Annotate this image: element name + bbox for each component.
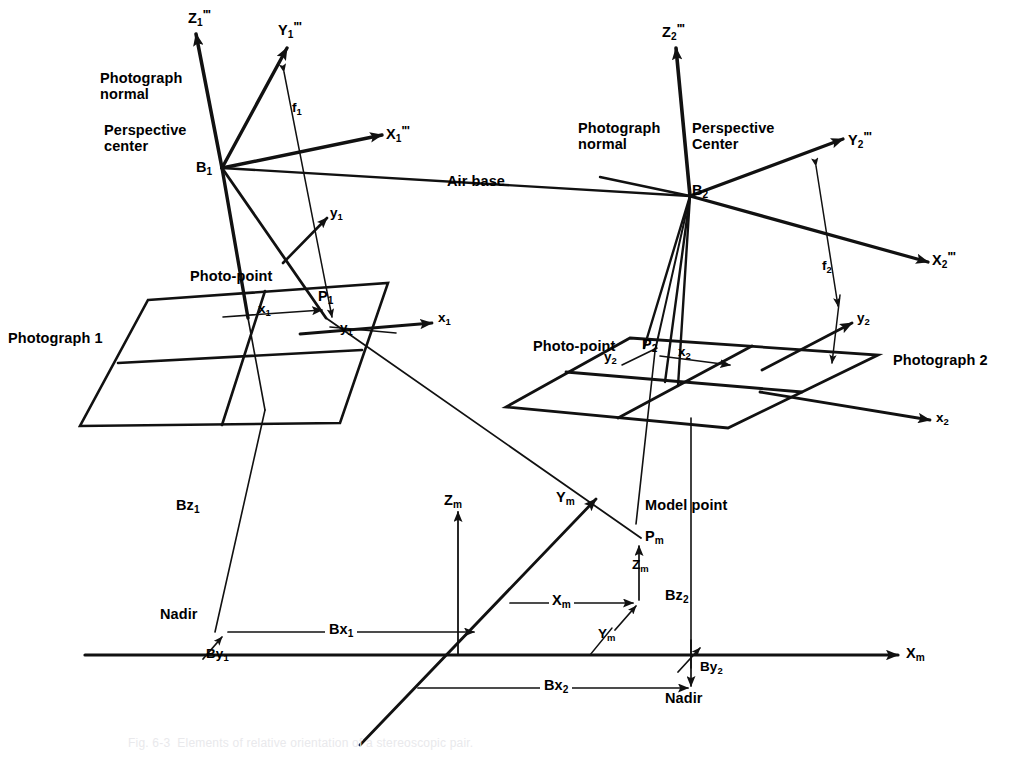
model-coordinate-system: [85, 499, 898, 745]
label-by2: By2: [700, 659, 723, 676]
label-x1-axis: X1''': [386, 124, 409, 144]
axis-ym: [360, 499, 596, 745]
label-ym-axis: Ym: [556, 489, 575, 507]
label-xm-axis-end: Xm: [906, 645, 925, 663]
label-nadir-1: Nadir: [160, 606, 198, 622]
label-axis-x2-small: x2: [936, 410, 949, 427]
label-photograph-normal-1: Photograph normal: [100, 70, 182, 102]
axis-y1-prime: [222, 48, 287, 168]
figure-caption: Fig. 6-3 Elements of relative orientatio…: [128, 736, 473, 750]
axis-z1-upper: [196, 34, 222, 168]
measure-by2: [678, 648, 700, 672]
label-y1-small: y1: [330, 205, 343, 222]
figure-canvas: Z1''' Y1''' Photograph normal Perspectiv…: [0, 0, 1012, 766]
label-perspective-center-2: Perspective Center: [692, 120, 775, 152]
label-zm-measure: Zm: [632, 557, 649, 574]
label-measure-x2: x2: [678, 344, 691, 361]
photograph-1-plane: [80, 283, 388, 426]
label-b1: B1: [196, 159, 212, 177]
plumb-line-bz1: [215, 410, 265, 632]
label-photograph-1: Photograph 1: [8, 330, 103, 346]
measure-x2: [660, 356, 730, 365]
axis-x2-small: [760, 392, 930, 420]
label-axis-x1-small: x1: [438, 310, 451, 327]
label-zm-axis: Zm: [444, 492, 462, 510]
label-y1-axis: Y1''': [278, 20, 301, 40]
axis-x2-prime: [690, 196, 928, 262]
label-measure-y2: y2: [604, 349, 617, 366]
label-bx1: Bx1: [325, 621, 357, 639]
axis-z2-upper: [676, 48, 690, 196]
label-bz2: Bz2: [665, 587, 689, 605]
label-bz1: Bz1: [176, 497, 200, 515]
label-y2-axis: Y2''': [848, 130, 871, 150]
label-perspective-center-1: Perspective center: [104, 122, 187, 154]
label-p2: P2: [642, 336, 658, 354]
label-z1-axis: Z1''': [188, 8, 210, 28]
label-by1: By1: [206, 646, 229, 663]
ray-b2-left: [644, 196, 690, 348]
label-axis-y2-small: y2: [857, 310, 870, 327]
axis-y2-small: [762, 323, 852, 370]
photo1-grid-h: [118, 350, 362, 363]
label-f1: f1: [292, 100, 302, 117]
ray-b1-p1: [222, 168, 326, 318]
label-b2: B2: [692, 182, 708, 200]
axis-x1-small: [300, 323, 432, 334]
label-x2-axis: X2''': [932, 250, 955, 270]
label-p1: P1: [318, 288, 334, 306]
label-ym-measure: Ym: [598, 626, 616, 643]
label-z2-axis: Z2''': [662, 22, 684, 42]
label-measure-x1: x1: [258, 301, 271, 318]
label-photo-point-1: Photo-point: [190, 268, 272, 284]
label-model-point: Model point: [645, 497, 727, 513]
label-nadir-2: Nadir: [665, 690, 703, 706]
label-pm: Pm: [645, 528, 664, 546]
label-f2: f2: [822, 258, 832, 275]
label-measure-y1: y1: [340, 320, 353, 337]
label-bx2: Bx2: [540, 677, 572, 695]
measure-ym: [615, 606, 636, 630]
label-xm-measure: Xm: [549, 592, 574, 610]
label-air-base: Air base: [447, 173, 505, 189]
measure-x1: [223, 310, 322, 317]
label-photograph-normal-2: Photograph normal: [578, 120, 660, 152]
label-photograph-2: Photograph 2: [893, 352, 988, 368]
diagram-svg: [0, 0, 1012, 766]
